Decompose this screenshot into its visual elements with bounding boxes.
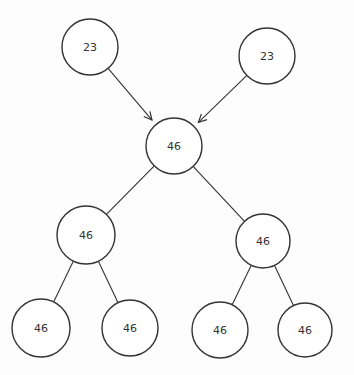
node-label: 46 — [256, 235, 270, 248]
node-label: 46 — [213, 324, 227, 337]
node-label: 46 — [79, 229, 93, 242]
edges — [54, 68, 294, 305]
tree-edge — [193, 166, 244, 221]
node-label: 23 — [260, 50, 274, 63]
node-label: 46 — [298, 324, 312, 337]
nodes: 232346464646464646 — [12, 19, 332, 358]
tree-node: 23 — [62, 19, 118, 75]
diagram-canvas: 232346464646464646 — [0, 0, 354, 375]
tree-node: 23 — [239, 28, 295, 84]
tree-edge — [106, 166, 154, 214]
tree-node: 46 — [102, 300, 158, 356]
node-label: 46 — [34, 322, 48, 335]
tree-edge — [232, 265, 251, 304]
tree-node: 46 — [236, 214, 290, 268]
tree-node: 46 — [12, 299, 70, 357]
arrow-edge — [198, 75, 246, 122]
tree-node: 46 — [278, 303, 332, 357]
tree-edge — [98, 261, 118, 302]
tree-node: 46 — [57, 206, 115, 264]
node-label: 46 — [123, 322, 137, 335]
tree-edge — [275, 265, 294, 305]
node-label: 23 — [83, 41, 97, 54]
node-label: 46 — [167, 140, 181, 153]
tree-edge — [54, 261, 74, 302]
tree-diagram: 232346464646464646 — [0, 0, 354, 375]
arrow-edge — [108, 68, 152, 120]
tree-node: 46 — [192, 302, 248, 358]
tree-node: 46 — [146, 118, 202, 174]
